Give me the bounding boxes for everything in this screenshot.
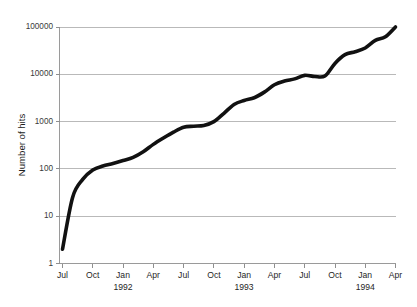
line-chart: 100000100001000100101 JulOctJan1992AprJu…: [0, 0, 417, 307]
chart-container: 100000100001000100101 JulOctJan1992AprJu…: [0, 0, 417, 307]
x-tick-label-4: Jul: [178, 270, 189, 280]
x-tick-label-9: Oct: [328, 270, 342, 280]
x-tick-label-3: Apr: [147, 270, 161, 280]
y-tick-label-1000: 1000: [35, 117, 54, 126]
x-tick-year-1993: 1993: [235, 282, 254, 292]
x-axis-ticks: JulOctJan1992AprJulOctJan1993AprJulOctJa…: [57, 264, 402, 292]
y-tick-label-100: 100: [39, 164, 53, 173]
axes: [60, 27, 397, 264]
y-tick-label-10000: 10000: [30, 69, 53, 78]
x-tick-label-8: Jul: [299, 270, 310, 280]
x-tick-label-10: Jan: [358, 270, 372, 280]
y-axis-ticks: 100000100001000100101: [26, 22, 60, 268]
y-axis-title: Number of hits: [16, 114, 27, 177]
x-tick-label-6: Jan: [237, 270, 251, 280]
x-tick-year-1992: 1992: [113, 282, 132, 292]
y-axis-title-group: Number of hits: [16, 114, 27, 177]
y-tick-label-10: 10: [44, 211, 54, 220]
x-tick-label-11: Apr: [389, 270, 403, 280]
y-tick-label-100000: 100000: [26, 22, 54, 31]
x-tick-label-5: Oct: [207, 270, 221, 280]
x-tick-year-1994: 1994: [356, 282, 375, 292]
x-tick-label-7: Apr: [268, 270, 282, 280]
x-tick-label-1: Oct: [86, 270, 100, 280]
x-tick-label-2: Jan: [116, 270, 130, 280]
x-tick-label-0: Jul: [57, 270, 68, 280]
y-tick-label-1: 1: [48, 259, 53, 268]
